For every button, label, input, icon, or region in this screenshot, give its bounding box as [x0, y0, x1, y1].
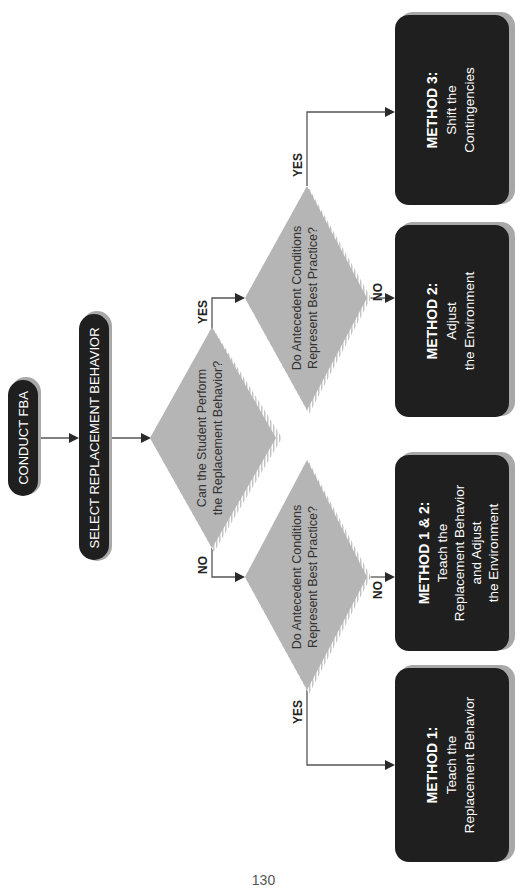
- arrow-upper-yes: [307, 112, 393, 186]
- method-2-title: METHOD 2:: [424, 283, 440, 360]
- decision-main-line2: the Replacement Behavior?: [211, 361, 225, 515]
- decision-upper-no-label: NO: [371, 283, 385, 301]
- select-node: SELECT REPLACEMENT BEHAVIOR: [79, 311, 112, 561]
- method-3-line1: Shift the: [444, 85, 459, 135]
- decision-lower: Do Antecedent Conditions Represent Best …: [245, 460, 385, 724]
- decision-upper-line1: Do Antecedent Conditions: [290, 226, 304, 371]
- method-2-line1: Adjust: [444, 302, 459, 340]
- method-1-2-line1: Teach the: [435, 524, 450, 583]
- outcome-method-1: METHOD 1: Teach the Replacement Behavior: [395, 665, 515, 862]
- method-1-2-line4: the Environment: [486, 504, 501, 603]
- start-label: CONDUCT FBA: [16, 391, 31, 485]
- method-3-title: METHOD 3:: [424, 72, 440, 149]
- decision-main: Can the Student Perform the Replacement …: [150, 300, 282, 574]
- decision-lower-yes-label: YES: [291, 700, 305, 724]
- decision-upper-line2: Represent Best Practice?: [306, 227, 320, 369]
- method-1-line1: Teach the: [444, 736, 459, 795]
- decision-upper: Do Antecedent Conditions Represent Best …: [245, 153, 385, 414]
- method-1-line2: Replacement Behavior: [462, 696, 477, 833]
- start-node: CONDUCT FBA: [8, 377, 41, 496]
- decision-main-yes-label: YES: [196, 300, 210, 324]
- select-label: SELECT REPLACEMENT BEHAVIOR: [87, 327, 102, 548]
- arrow-main-yes: [212, 298, 243, 330]
- decision-upper-yes-label: YES: [291, 153, 305, 177]
- arrow-main-no: [212, 548, 243, 577]
- method-1-2-line3: and Adjust: [469, 521, 484, 584]
- decision-main-line1: Can the Student Perform: [195, 369, 209, 507]
- decision-main-no-label: NO: [196, 556, 210, 574]
- arrow-lower-yes: [307, 690, 393, 765]
- method-3-line2: Contingencies: [462, 67, 477, 153]
- decision-lower-no-label: NO: [371, 581, 385, 599]
- method-2-line2: the Environment: [462, 272, 477, 371]
- method-1-2-line2: Replacement Behavior: [452, 484, 467, 621]
- method-1-2-title: METHOD 1 & 2:: [416, 502, 432, 605]
- outcome-method-3: METHOD 3: Shift the Contingencies: [395, 12, 515, 205]
- page-number: 130: [0, 872, 527, 888]
- outcome-method-1-and-2: METHOD 1 & 2: Teach the Replacement Beha…: [395, 452, 515, 651]
- decision-lower-line1: Do Antecedent Conditions: [290, 505, 304, 650]
- outcome-method-2: METHOD 2: Adjust the Environment: [395, 222, 515, 417]
- method-1-title: METHOD 1:: [424, 727, 440, 804]
- decision-lower-line2: Represent Best Practice?: [306, 506, 320, 648]
